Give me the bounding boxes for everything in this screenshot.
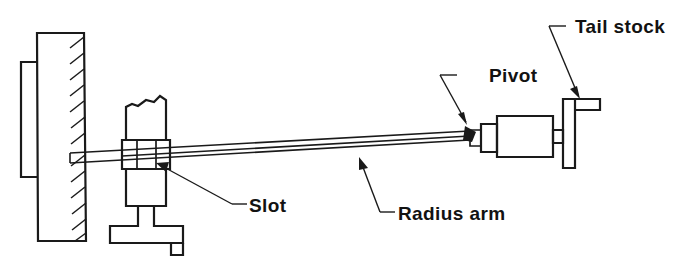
- post-t-base: [110, 206, 183, 255]
- tail-stock-label: Tail stock: [575, 16, 665, 37]
- diagram-canvas: Pivot Tail stock Slot Radius arm: [0, 0, 692, 277]
- pivot-joint: [463, 126, 481, 146]
- slot-label: Slot: [249, 195, 287, 216]
- tail-stock-plate: [563, 99, 575, 168]
- pivot-label: Pivot: [489, 65, 538, 86]
- wall-side-plate: [21, 62, 37, 177]
- tail-stock-top-tab: [575, 99, 600, 110]
- technical-diagram: Pivot Tail stock Slot Radius arm: [0, 0, 692, 277]
- radius-arm-bar: [70, 131, 470, 163]
- tail-stock-cylinder: [497, 116, 563, 157]
- slotted-post: [122, 96, 170, 206]
- wall-block: [37, 33, 86, 241]
- pivot-leader: [440, 75, 467, 125]
- radius-arm-label: Radius arm: [398, 203, 505, 224]
- radius-arm-leader: [359, 157, 395, 212]
- spindle-collar: [481, 124, 497, 152]
